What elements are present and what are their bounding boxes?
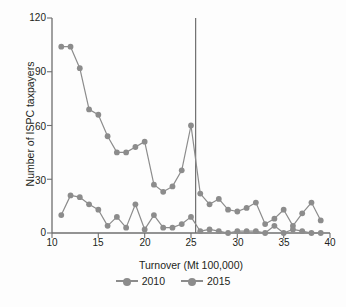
legend-marker-icon (181, 276, 203, 286)
data-point (272, 223, 278, 229)
data-point (142, 139, 148, 145)
data-point (253, 200, 259, 206)
data-point (234, 209, 240, 215)
data-point (68, 192, 74, 198)
x-tick-label: 35 (269, 238, 299, 248)
data-point (272, 216, 278, 222)
data-point (133, 144, 139, 150)
data-point (77, 194, 83, 200)
data-point (262, 230, 268, 236)
data-point (179, 221, 185, 227)
data-point (207, 201, 213, 207)
data-point (299, 228, 305, 234)
data-point (58, 212, 64, 218)
data-point (318, 218, 324, 224)
y-tick-label: 60 (20, 122, 46, 132)
data-point (105, 133, 111, 139)
data-point (160, 225, 166, 231)
data-point (77, 65, 83, 71)
legend-marker-icon (116, 276, 138, 286)
data-point (160, 189, 166, 195)
series-2010 (58, 44, 323, 229)
data-point (234, 228, 240, 234)
data-point (133, 201, 139, 207)
data-point (244, 228, 250, 234)
data-point (290, 227, 296, 233)
data-point (225, 207, 231, 213)
data-point (299, 210, 305, 216)
series-line (61, 47, 320, 226)
data-point (309, 200, 315, 206)
data-point (86, 106, 92, 112)
data-point (58, 44, 64, 50)
data-point (197, 191, 203, 197)
data-point (281, 207, 287, 213)
data-point (281, 230, 287, 236)
data-point (309, 230, 315, 236)
chart-figure: Number of ISPC taxpayers 120 90 60 30 0 … (0, 0, 346, 307)
x-tick-label: 30 (223, 238, 253, 248)
data-point (244, 205, 250, 211)
data-point (114, 214, 120, 220)
data-point (95, 112, 101, 118)
x-tick-label: 15 (83, 238, 113, 248)
data-point (262, 221, 268, 227)
data-point (123, 225, 129, 231)
x-tick-label: 20 (130, 238, 160, 248)
y-tick-label: 30 (20, 176, 46, 186)
data-point (170, 184, 176, 190)
data-point (114, 149, 120, 155)
data-point (188, 214, 194, 220)
y-tick-label: 90 (20, 67, 46, 77)
data-point (179, 167, 185, 173)
x-tick-label: 40 (315, 238, 345, 248)
data-point (216, 196, 222, 202)
series-2015 (58, 192, 323, 235)
legend-item-2010[interactable]: 2010 (116, 276, 165, 286)
y-axis-tick-labels: 120 90 60 30 0 (16, 0, 46, 307)
data-point (95, 207, 101, 213)
legend-label: 2015 (207, 276, 230, 286)
x-axis-title: Turnover (Mt 100,000) (52, 259, 330, 271)
data-point (207, 227, 213, 233)
chart-legend: 2010 2015 (0, 276, 346, 286)
data-point (318, 230, 324, 236)
data-point (197, 228, 203, 234)
data-point (216, 228, 222, 234)
y-tick-label: 120 (20, 13, 46, 23)
data-point (86, 201, 92, 207)
data-point (253, 228, 259, 234)
legend-item-2015[interactable]: 2015 (181, 276, 230, 286)
data-point (170, 225, 176, 231)
data-point (151, 212, 157, 218)
legend-label: 2010 (142, 276, 165, 286)
data-point (105, 223, 111, 229)
data-series-group (58, 44, 323, 236)
x-tick-label: 25 (176, 238, 206, 248)
data-point (151, 182, 157, 188)
data-point (142, 227, 148, 233)
data-point (188, 123, 194, 129)
data-point (123, 149, 129, 155)
x-tick-label: 10 (37, 238, 67, 248)
data-point (68, 44, 74, 50)
y-tick-label: 0 (20, 228, 46, 238)
data-point (225, 230, 231, 236)
